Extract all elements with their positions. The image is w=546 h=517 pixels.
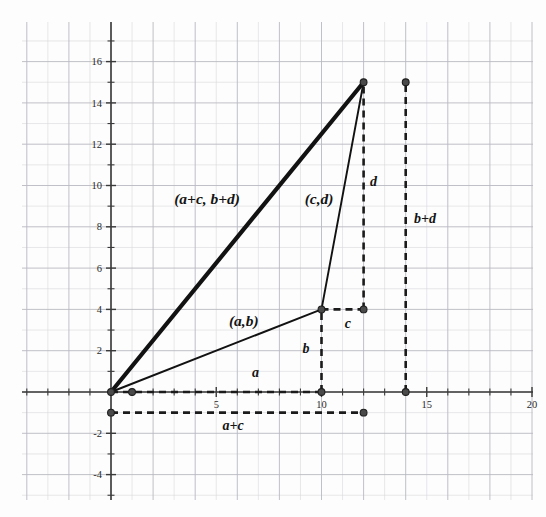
label-c: c	[345, 316, 352, 331]
label-a-b: (a,b)	[229, 312, 259, 330]
y-tick-label: 8	[97, 221, 102, 232]
math-annotations: (a+c, b+d)(c,d)(a,b)db+dcbaa+c	[174, 174, 437, 434]
y-tick-label: -2	[93, 428, 102, 439]
point-marker-c-end	[360, 306, 367, 313]
point-marker-a-plus-c-end	[360, 409, 367, 416]
point-marker-a-b	[318, 306, 325, 313]
label-a: a	[252, 365, 259, 380]
point-marker-a-plus-c-b-plus-d	[360, 79, 367, 86]
x-tick-label: 15	[422, 399, 433, 410]
y-tick-label: 4	[97, 304, 103, 315]
x-tick-label: 20	[527, 399, 538, 410]
x-tick-label: 5	[214, 399, 219, 410]
label-a-plus-c: a+c	[223, 418, 245, 433]
y-tick-label: 16	[92, 56, 103, 67]
point-marker-a-tick-end	[129, 389, 136, 396]
plot-canvas: 5101520-4-2246810121416 (a+c, b+d)(c,d)(…	[0, 0, 546, 517]
y-tick-label: 10	[92, 180, 103, 191]
label-b: b	[303, 341, 310, 356]
point-marker-b-plus-d-top	[402, 79, 409, 86]
point-marker-b-plus-d-bottom	[402, 389, 409, 396]
point-marker-origin	[108, 389, 115, 396]
label-c-d: (c,d)	[305, 190, 334, 208]
point-marker-a-plus-c-start	[108, 409, 115, 416]
y-tick-label: 6	[97, 263, 102, 274]
x-tick-label: 10	[316, 399, 327, 410]
vector-diagram-figure: 5101520-4-2246810121416 (a+c, b+d)(c,d)(…	[0, 0, 546, 517]
point-marker-a-foot	[318, 389, 325, 396]
label-b-plus-d: b+d	[414, 211, 437, 226]
label-d: d	[370, 174, 378, 189]
y-tick-label: 12	[92, 139, 103, 150]
label-a-plus-c-b-plus-d: (a+c, b+d)	[174, 190, 240, 208]
y-tick-label: 2	[97, 345, 102, 356]
y-tick-label: -4	[93, 469, 102, 480]
y-tick-label: 14	[92, 98, 103, 109]
